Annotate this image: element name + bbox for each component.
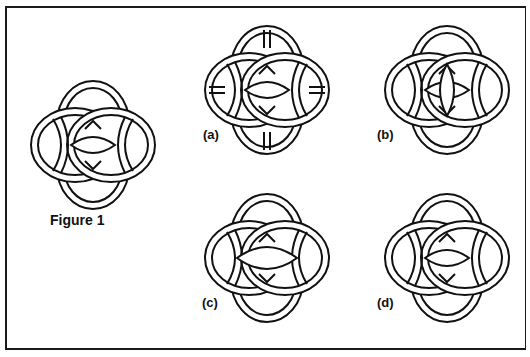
knot-variant-a (202, 23, 332, 158)
label-b: (b) (377, 127, 394, 142)
label-a: (a) (203, 127, 219, 142)
figure-1-knot (28, 78, 158, 213)
knot-variant-c (202, 191, 332, 326)
label-c: (c) (202, 295, 218, 310)
figure-caption: Figure 1 (50, 212, 104, 228)
knot-variant-b (382, 23, 512, 158)
knot-variant-d (382, 191, 512, 326)
label-d: (d) (377, 295, 394, 310)
